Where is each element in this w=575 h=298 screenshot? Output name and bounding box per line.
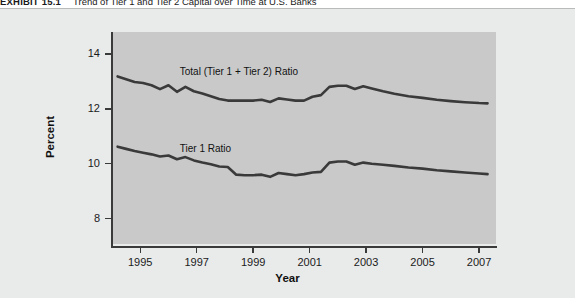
line-tier1-ratio — [118, 147, 488, 177]
exhibit-figure: EXHIBIT 15.1Trend of Tier 1 and Tier 2 C… — [0, 0, 575, 298]
line-total-ratio — [118, 76, 488, 103]
series-lines — [0, 0, 575, 298]
